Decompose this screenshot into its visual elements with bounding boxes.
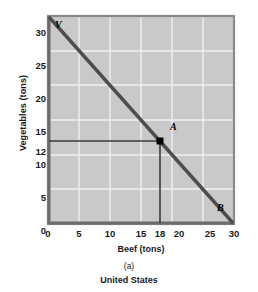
- figure-united-states-ppf: Vegetables (tons) 30 25 20 15 12 10 5 0 …: [0, 0, 258, 292]
- x-tick-30: 30: [222, 229, 246, 239]
- figure-caption-index: (a): [0, 261, 258, 271]
- x-tick-5: 5: [67, 229, 91, 239]
- plot-area: V A B: [46, 14, 236, 226]
- x-tick-10: 10: [98, 229, 122, 239]
- x-tick-25: 25: [198, 229, 222, 239]
- x-axis-title: Beef (tons): [48, 244, 234, 254]
- point-a-marker: [157, 138, 164, 145]
- point-label-a: A: [169, 121, 177, 132]
- x-tick-0: 0: [36, 229, 60, 239]
- figure-caption-title: United States: [0, 275, 258, 285]
- x-tick-20: 20: [167, 229, 191, 239]
- point-label-b: B: [216, 202, 224, 213]
